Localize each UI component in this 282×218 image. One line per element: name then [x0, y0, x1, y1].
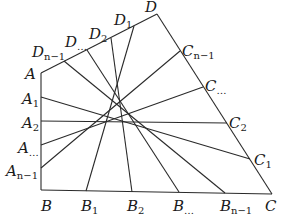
- label-d: D: [144, 0, 157, 16]
- grid-line-vertical-3: [87, 50, 179, 192]
- label-dn-1: Dn−1: [31, 43, 65, 62]
- label-an-1: An−1: [4, 162, 38, 181]
- label-b2: B2: [126, 197, 144, 216]
- label-cn-1: Cn−1: [182, 42, 215, 61]
- label-b1: B1: [80, 197, 98, 216]
- label-cdots: C…: [205, 77, 226, 96]
- label-b: B: [40, 197, 52, 215]
- label-c1: C1: [254, 151, 272, 170]
- label-bn-1: Bn−1: [219, 197, 252, 216]
- point-labels: AA1A2A…An−1BB1B2B…Bn−1CDn−1D…D2D1DCn−1C……: [4, 0, 277, 216]
- label-d2: D2: [88, 25, 107, 44]
- label-c: C: [265, 197, 277, 215]
- quadrilateral-grid-diagram: AA1A2A…An−1BB1B2B…Bn−1CDn−1D…D2D1DCn−1C……: [0, 0, 282, 218]
- edge-bc: [41, 190, 272, 194]
- label-a2: A2: [20, 114, 39, 133]
- grid-line-horizontal-4: [41, 51, 180, 168]
- label-ddots: D…: [64, 33, 87, 52]
- label-bdots: B…: [172, 197, 194, 216]
- grid-line-vertical-1: [86, 26, 134, 191]
- label-a: A: [23, 65, 36, 83]
- label-adots: A…: [16, 139, 39, 158]
- label-c2: C2: [229, 114, 247, 133]
- label-d1: D1: [113, 11, 132, 30]
- edge-da: [41, 14, 157, 73]
- label-a1: A1: [20, 90, 39, 109]
